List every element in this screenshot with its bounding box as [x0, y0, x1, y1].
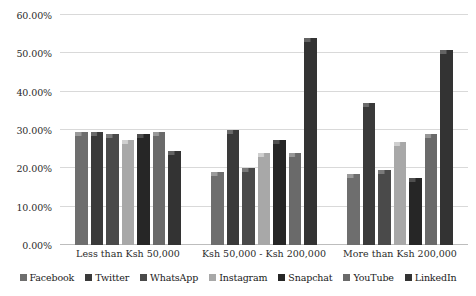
bar: [122, 140, 134, 245]
legend-swatch-icon: [343, 274, 350, 281]
bar-top-bevel: [168, 151, 180, 155]
bar: [289, 153, 301, 245]
bar: [425, 134, 437, 245]
bar-body: [304, 41, 316, 245]
bar-top-bevel: [227, 130, 239, 134]
bar: [378, 170, 390, 245]
bar-body: [378, 173, 390, 245]
bar-top-bevel: [289, 153, 301, 157]
legend-swatch-icon: [278, 274, 285, 281]
bar-body: [347, 177, 359, 245]
bar: [394, 142, 406, 246]
legend-label: Instagram: [219, 272, 267, 283]
bar-body: [211, 175, 223, 245]
legend-item-instagram[interactable]: Instagram: [209, 272, 267, 283]
legend-item-snapchat[interactable]: Snapchat: [278, 272, 332, 283]
bar-body: [137, 137, 149, 245]
bar: [409, 178, 421, 245]
bar-top-bevel: [91, 132, 103, 136]
legend-label: LinkedIn: [415, 272, 457, 283]
bar-body: [227, 133, 239, 245]
legend-swatch-icon: [20, 274, 27, 281]
category-label: More than Ksh 200,000: [343, 248, 457, 259]
bar-top-bevel: [363, 103, 375, 107]
bar: [106, 134, 118, 245]
legend-item-whatsapp[interactable]: WhatsApp: [140, 272, 198, 283]
legend-item-twitter[interactable]: Twitter: [85, 272, 129, 283]
bar-top-bevel: [425, 134, 437, 138]
bar: [304, 38, 316, 245]
legend-item-facebook[interactable]: Facebook: [20, 272, 75, 283]
bar-body: [153, 135, 165, 245]
bar: [168, 151, 180, 245]
bar-top-bevel: [137, 134, 149, 138]
y-tick-label: 60.00%: [16, 10, 52, 21]
bar-top-bevel: [75, 132, 87, 136]
bar: [153, 132, 165, 245]
bar-top-bevel: [273, 140, 285, 144]
bar-body: [122, 143, 134, 245]
bar: [347, 174, 359, 245]
bar: [363, 103, 375, 245]
bar-body: [440, 53, 452, 246]
bar-chart: 0.00%10.00%20.00%30.00%40.00%50.00%60.00…: [0, 0, 476, 296]
bar-body: [75, 135, 87, 245]
legend-label: YouTube: [353, 272, 393, 283]
bar-top-bevel: [440, 50, 452, 54]
chart-legend: FacebookTwitterWhatsAppInstagramSnapchat…: [0, 272, 476, 283]
y-tick-label: 0.00%: [22, 240, 52, 251]
plot-area: [60, 15, 468, 245]
bar: [91, 132, 103, 245]
bar: [258, 153, 270, 245]
bar-top-bevel: [347, 174, 359, 178]
bar-body: [106, 137, 118, 245]
y-tick-label: 40.00%: [16, 86, 52, 97]
legend-swatch-icon: [140, 274, 147, 281]
bar-top-bevel: [153, 132, 165, 136]
legend-label: Facebook: [30, 272, 75, 283]
legend-item-youtube[interactable]: YouTube: [343, 272, 393, 283]
legend-item-linkedin[interactable]: LinkedIn: [405, 272, 457, 283]
bar: [227, 130, 239, 245]
bar-top-bevel: [106, 134, 118, 138]
bar-top-bevel: [242, 168, 254, 172]
bar: [273, 140, 285, 245]
y-tick-label: 10.00%: [16, 201, 52, 212]
legend-swatch-icon: [209, 274, 216, 281]
bar-body: [409, 181, 421, 245]
bars-layer: [60, 15, 468, 245]
bar-body: [425, 137, 437, 245]
bar-body: [91, 135, 103, 245]
bar-top-bevel: [394, 142, 406, 146]
y-axis: 0.00%10.00%20.00%30.00%40.00%50.00%60.00…: [0, 0, 56, 246]
legend-label: Twitter: [95, 272, 129, 283]
y-tick-label: 30.00%: [16, 125, 52, 136]
bar-body: [394, 145, 406, 246]
category-label: Ksh 50,000 - Ksh 200,000: [202, 248, 326, 259]
x-axis-category-labels: Less than Ksh 50,000Ksh 50,000 - Ksh 200…: [60, 248, 468, 266]
bar-body: [168, 154, 180, 245]
bar-top-bevel: [304, 38, 316, 42]
bar-body: [242, 171, 254, 245]
bar: [75, 132, 87, 245]
y-tick-label: 20.00%: [16, 163, 52, 174]
bar-top-bevel: [409, 178, 421, 182]
bar-body: [289, 156, 301, 245]
legend-label: Snapchat: [288, 272, 332, 283]
bar-body: [273, 143, 285, 245]
legend-label: WhatsApp: [150, 272, 198, 283]
category-label: Less than Ksh 50,000: [76, 248, 180, 259]
bar: [211, 172, 223, 245]
y-tick-label: 50.00%: [16, 48, 52, 59]
bar-top-bevel: [378, 170, 390, 174]
bar-top-bevel: [258, 153, 270, 157]
bar: [440, 50, 452, 246]
bar-top-bevel: [122, 140, 134, 144]
legend-swatch-icon: [85, 274, 92, 281]
bar-body: [258, 156, 270, 245]
legend-swatch-icon: [405, 274, 412, 281]
bar-body: [363, 106, 375, 245]
bar: [242, 168, 254, 245]
bar: [137, 134, 149, 245]
bar-top-bevel: [211, 172, 223, 176]
